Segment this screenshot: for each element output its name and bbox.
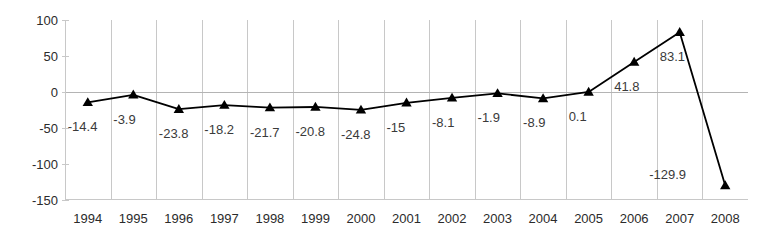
data-point-label: -21.7 — [250, 125, 280, 138]
y-axis-tick-mark — [62, 200, 69, 201]
x-axis-tick-label: 2002 — [429, 206, 475, 232]
data-point-label: -14.4 — [68, 120, 98, 133]
data-point-label: -129.9 — [649, 167, 686, 180]
data-point-label: -8.1 — [432, 115, 454, 128]
x-axis-tick-label: 1998 — [247, 206, 293, 232]
data-point-label: 83.1 — [660, 50, 685, 63]
data-point-label: -23.8 — [159, 127, 189, 140]
x-axis-tick-label: 1996 — [156, 206, 202, 232]
x-axis-tick-label: 1997 — [202, 206, 248, 232]
data-point-marker — [219, 100, 229, 109]
data-point-label: 41.8 — [614, 79, 639, 92]
y-axis: 100500-50-100-150 — [10, 0, 58, 239]
data-point-marker — [675, 27, 685, 36]
x-axis-tick-label: 2001 — [384, 206, 430, 232]
data-point-label: 0.1 — [569, 109, 587, 122]
data-point-label: -8.9 — [523, 116, 545, 129]
x-axis-tick-label: 2003 — [475, 206, 521, 232]
x-axis-tick-label: 1995 — [111, 206, 157, 232]
vertical-gridlines — [66, 20, 749, 200]
data-point-label: -24.8 — [341, 127, 371, 140]
data-point-label: -18.2 — [204, 123, 234, 136]
data-point-marker — [720, 180, 730, 189]
line-chart: 100500-50-100-150 -14.4-3.9-23.8-18.2-21… — [0, 0, 777, 239]
data-point-label: -1.9 — [478, 111, 500, 124]
y-axis-tick-label: -50 — [10, 122, 58, 135]
data-point-label: -15 — [387, 120, 406, 133]
x-axis-tick-label: 2004 — [520, 206, 566, 232]
plot-frame — [65, 20, 748, 200]
y-axis-tick-label: 0 — [10, 86, 58, 99]
x-axis-tick-label: 2007 — [657, 206, 703, 232]
y-axis-tick-label: 50 — [10, 50, 58, 63]
data-line — [88, 32, 725, 185]
series-markers — [83, 27, 731, 189]
x-axis-tick-label: 1999 — [293, 206, 339, 232]
x-axis-tick-label: 1994 — [65, 206, 111, 232]
x-axis: 1994199519961997199819992000200120022003… — [65, 206, 748, 232]
y-axis-tick-label: -100 — [10, 158, 58, 171]
plot-svg — [65, 20, 748, 200]
data-point-marker — [629, 57, 639, 66]
series-line — [88, 32, 725, 185]
data-point-marker — [583, 87, 593, 96]
x-axis-tick-label: 2000 — [338, 206, 384, 232]
data-point-marker — [128, 90, 138, 99]
y-axis-tick-label: 100 — [10, 14, 58, 27]
x-axis-tick-label: 2008 — [702, 206, 748, 232]
data-point-label: -3.9 — [113, 112, 135, 125]
plot-area: -14.4-3.9-23.8-18.2-21.7-20.8-24.8-15-8.… — [65, 20, 748, 200]
x-axis-tick-label: 2006 — [611, 206, 657, 232]
y-axis-tick-label: -150 — [10, 194, 58, 207]
data-point-label: -20.8 — [295, 124, 325, 137]
x-axis-tick-label: 2005 — [566, 206, 612, 232]
